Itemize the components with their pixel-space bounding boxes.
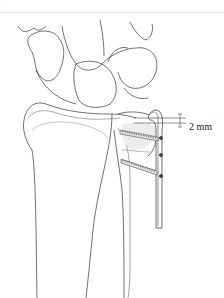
radius <box>23 103 136 298</box>
measurement-label: 2 mm <box>189 121 212 132</box>
wrist-illustration <box>0 0 224 298</box>
carpal-bones <box>18 20 157 107</box>
